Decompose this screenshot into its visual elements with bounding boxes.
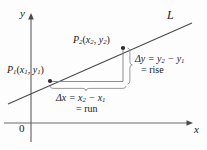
x-axis-arrowhead <box>187 120 194 126</box>
y-axis-label: y <box>20 8 25 20</box>
x-axis-label: x <box>194 124 199 136</box>
rise-brace <box>127 48 132 84</box>
y-axis-arrowhead <box>28 13 34 20</box>
delta-y-lhs: Δy = y <box>135 53 162 64</box>
delta-x-lhs: Δx = x <box>56 92 83 103</box>
delta-x-sub-1: 1 <box>102 96 105 103</box>
point-p2-label: P2(x2, y2) <box>73 35 110 46</box>
run-brace <box>50 86 126 91</box>
delta-y-sub-1: 1 <box>181 57 184 64</box>
origin-label: 0 <box>19 123 25 135</box>
point-p1-label: P1(x1, y1) <box>7 65 44 76</box>
delta-y-rise-label: = rise <box>141 65 164 76</box>
delta-x-run-label: = run <box>76 104 97 115</box>
p2-paren-close: ) <box>107 34 110 45</box>
delta-x-minus: − x <box>86 92 102 103</box>
point-p1-marker <box>48 79 52 83</box>
line-label: L <box>167 9 174 22</box>
p1-paren-close: ) <box>41 64 44 75</box>
slope-diagram-figure: y x 0 L P1(x1, y1) P2(x2, y2) Δy = y2 − … <box>0 0 207 150</box>
delta-y-minus: − y <box>165 53 181 64</box>
point-p2-marker <box>121 46 125 50</box>
